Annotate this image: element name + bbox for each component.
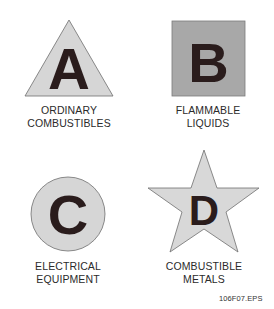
class-c-label: ELECTRICAL EQUIPMENT (13, 260, 123, 285)
class-d-label-line1: COMBUSTIBLE (149, 260, 259, 273)
class-c-letter: C (48, 183, 88, 246)
class-b-label-line1: FLAMMABLE (153, 104, 263, 117)
class-a-letter: A (48, 36, 90, 101)
figure-id: 106F07.EPS (219, 294, 263, 303)
class-c-label-line1: ELECTRICAL (13, 260, 123, 273)
class-d-letter: D (189, 187, 219, 234)
class-b-letter: B (188, 31, 228, 94)
class-d-symbol: D (148, 150, 259, 252)
class-c-label-line2: EQUIPMENT (13, 273, 123, 286)
class-b-symbol: B (172, 21, 245, 96)
class-b-label-line2: LIQUIDS (153, 117, 263, 130)
class-d-label-line2: METALS (149, 273, 259, 286)
class-a-symbol: A (25, 20, 113, 101)
class-a-label-line1: ORDINARY (14, 104, 124, 117)
class-a-label: ORDINARY COMBUSTIBLES (14, 104, 124, 129)
class-c-symbol: C (31, 177, 105, 251)
class-b-label: FLAMMABLE LIQUIDS (153, 104, 263, 129)
class-a-label-line2: COMBUSTIBLES (14, 117, 124, 130)
class-d-label: COMBUSTIBLE METALS (149, 260, 259, 285)
